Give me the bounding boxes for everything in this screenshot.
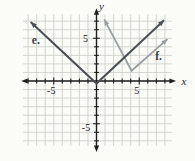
x-tick-label-5: 5	[134, 85, 139, 96]
series-f-label: f.	[155, 50, 162, 62]
x-axis-label: x	[181, 75, 187, 87]
absolute-value-graphs-figure: -555-5xyf.e.	[0, 0, 195, 161]
coordinate-plane: -555-5xyf.e.	[0, 0, 195, 161]
y-tick-label--5: -5	[82, 122, 90, 133]
y-tick-label-5: 5	[83, 33, 88, 44]
x-tick-label--5: -5	[47, 85, 55, 96]
y-axis-label: y	[98, 0, 104, 12]
series-e-label: e.	[32, 34, 40, 46]
